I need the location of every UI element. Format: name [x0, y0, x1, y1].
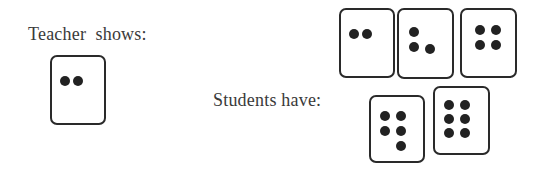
teacher-label: Teacher shows: [28, 24, 147, 45]
pip-dot [396, 126, 406, 136]
student-card-six [433, 86, 490, 155]
student-card-two [339, 8, 395, 78]
pip-dot [362, 29, 372, 39]
pip-dot [444, 114, 454, 124]
students-label: Students have: [213, 90, 321, 111]
pip-dot [380, 111, 390, 121]
pip-dot [409, 42, 419, 52]
teacher-card [50, 55, 106, 125]
pip-dot [380, 126, 390, 136]
student-card-four [460, 8, 517, 78]
pip-dot [460, 114, 470, 124]
pip-dot [444, 100, 454, 110]
pip-dot [60, 76, 70, 86]
pip-dot [73, 76, 83, 86]
pip-dot [460, 100, 470, 110]
pip-dot [396, 141, 406, 151]
pip-dot [409, 27, 419, 37]
pip-dot [475, 25, 485, 35]
student-card-five [369, 95, 425, 163]
pip-dot [491, 25, 501, 35]
pip-dot [396, 111, 406, 121]
student-card-three [397, 8, 454, 79]
pip-dot [475, 40, 485, 50]
pip-dot [349, 29, 359, 39]
pip-dot [491, 40, 501, 50]
pip-dot [444, 128, 454, 138]
pip-dot [460, 128, 470, 138]
pip-dot [425, 44, 435, 54]
